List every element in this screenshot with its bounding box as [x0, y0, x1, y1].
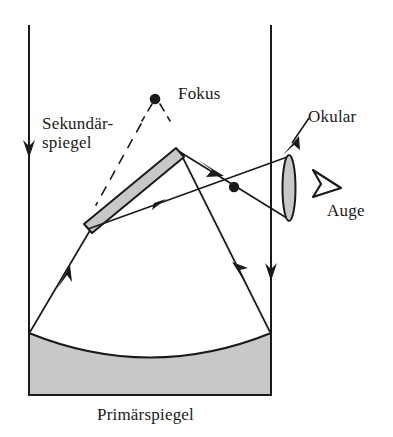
- focus-dash-right: [160, 104, 170, 121]
- secondary-mirror: [84, 148, 184, 233]
- label-fokus: Fokus: [178, 84, 221, 103]
- reflected-ray-right-arrowhead-icon: [232, 262, 248, 287]
- secondary-mirror-body: [84, 148, 184, 233]
- okular-pointer-arrowhead-icon: [283, 136, 300, 155]
- label-auge: Auge: [327, 201, 365, 220]
- primary-mirror: [29, 333, 271, 395]
- reflected-ray-left-line: [30, 227, 92, 332]
- beam-upper-arrowhead-icon: [198, 160, 224, 177]
- okular-pointer: [283, 118, 309, 155]
- okular-pointer-line: [292, 118, 309, 143]
- label-sekundaerspiegel-line2: spiegel: [42, 133, 92, 152]
- telescope-diagram-figure: Fokus Okular Auge Sekundär- spiegel Prim…: [0, 0, 393, 437]
- focus-dash-left: [142, 104, 152, 121]
- reflected-ray-left: [30, 227, 92, 332]
- image-point-dot-icon: [229, 182, 239, 192]
- primary-mirror-body: [29, 333, 271, 395]
- label-primaerspiegel: Primärspiegel: [97, 405, 194, 424]
- eyepiece-lens: [283, 155, 296, 221]
- label-okular: Okular: [308, 107, 356, 126]
- eye-symbol-outline: [313, 170, 341, 197]
- eye-symbol-icon: [313, 170, 341, 197]
- reflected-ray-left-arrowhead-icon: [57, 265, 72, 289]
- eyepiece-lens-body: [283, 155, 296, 221]
- label-sekundaerspiegel-line1: Sekundär-: [42, 114, 113, 133]
- secondary-to-eyepiece-lower: [88, 156, 290, 229]
- focus-point-dot-icon: [150, 94, 161, 105]
- beam-lower-line: [88, 156, 290, 229]
